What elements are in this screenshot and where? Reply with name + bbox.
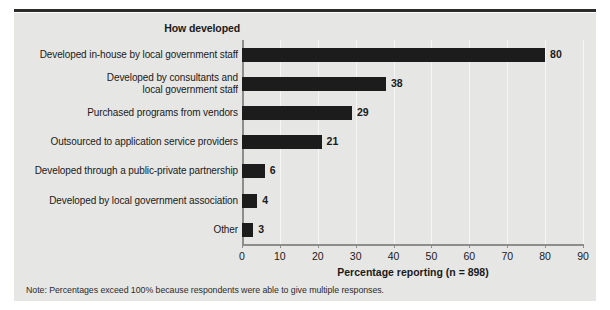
- x-tick-mark: [242, 244, 243, 248]
- bar-category-label: Developed by consultants andlocal govern…: [0, 72, 238, 96]
- bar-value-label: 21: [327, 135, 339, 147]
- footnote: Note: Percentages exceed 100% because re…: [26, 285, 384, 295]
- bar: [242, 106, 352, 120]
- x-tick-label: 70: [492, 250, 522, 262]
- x-tick-label: 20: [303, 250, 333, 262]
- x-tick-label: 80: [530, 250, 560, 262]
- bar-category-label: Other: [0, 224, 238, 236]
- bar: [242, 77, 386, 91]
- x-tick-mark: [469, 244, 470, 248]
- gridline: [356, 40, 357, 245]
- x-tick-mark: [318, 244, 319, 248]
- bar: [242, 135, 322, 149]
- gridline: [469, 40, 470, 245]
- bar-category-label-line: Developed through a public-private partn…: [0, 165, 238, 177]
- bar-value-label: 6: [270, 164, 276, 176]
- x-tick-label: 30: [341, 250, 371, 262]
- x-tick-mark: [583, 244, 584, 248]
- x-tick-mark: [356, 244, 357, 248]
- x-tick-label: 40: [379, 250, 409, 262]
- x-tick-mark: [507, 244, 508, 248]
- gridline: [394, 40, 395, 245]
- x-tick-label: 60: [454, 250, 484, 262]
- bar-value-label: 38: [391, 77, 403, 89]
- bar-category-label-line: Other: [0, 224, 238, 236]
- bar-category-label: Developed through a public-private partn…: [0, 165, 238, 177]
- gridline: [507, 40, 508, 245]
- gridline: [431, 40, 432, 245]
- x-tick-mark: [431, 244, 432, 248]
- bar: [242, 194, 257, 208]
- bar: [242, 164, 265, 178]
- x-tick-label: 10: [265, 250, 295, 262]
- bar-category-label: Developed by local government associatio…: [0, 195, 238, 207]
- bar-value-label: 29: [357, 106, 369, 118]
- x-tick-label: 0: [227, 250, 257, 262]
- bar-category-label: Developed in-house by local government s…: [0, 49, 238, 61]
- chart-title: How developed: [0, 22, 240, 34]
- top-divider-rule: [14, 9, 596, 12]
- bar-category-label-line: Developed in-house by local government s…: [0, 49, 238, 61]
- bar-category-label: Outsourced to application service provid…: [0, 136, 238, 148]
- bar-value-label: 80: [550, 48, 562, 60]
- x-tick-mark: [545, 244, 546, 248]
- chart-figure: How developed 0102030405060708090 Develo…: [0, 0, 610, 310]
- x-tick-mark: [280, 244, 281, 248]
- bar-value-label: 3: [258, 223, 264, 235]
- bar-category-label-line: local government staff: [0, 84, 238, 96]
- bar: [242, 223, 253, 237]
- x-axis-label: Percentage reporting (n = 898): [242, 266, 584, 278]
- bar-category-label-line: Outsourced to application service provid…: [0, 136, 238, 148]
- bar-category-label-line: Developed by local government associatio…: [0, 195, 238, 207]
- gridline: [583, 40, 584, 245]
- x-tick-label: 90: [568, 250, 598, 262]
- bar: [242, 48, 545, 62]
- x-tick-mark: [394, 244, 395, 248]
- bar-category-label-line: Developed by consultants and: [0, 72, 238, 84]
- x-tick-label: 50: [416, 250, 446, 262]
- bar-category-label-line: Purchased programs from vendors: [0, 107, 238, 119]
- gridline: [545, 40, 546, 245]
- bar-value-label: 4: [262, 194, 268, 206]
- x-axis-line: [242, 244, 584, 246]
- bar-category-label: Purchased programs from vendors: [0, 107, 238, 119]
